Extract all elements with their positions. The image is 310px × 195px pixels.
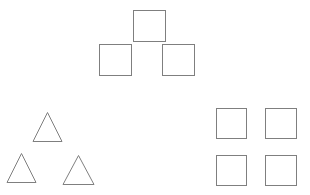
figure-background	[0, 0, 310, 195]
shapes-figure-canvas	[0, 0, 310, 195]
shapes-svg-root	[0, 0, 310, 195]
